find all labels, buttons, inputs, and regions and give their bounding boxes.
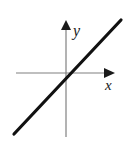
x-axis-label: x — [104, 77, 112, 93]
y-axis-label: y — [71, 22, 81, 40]
coordinate-plane-svg: y x — [0, 0, 128, 149]
coordinate-plane-figure: y x — [0, 0, 128, 149]
